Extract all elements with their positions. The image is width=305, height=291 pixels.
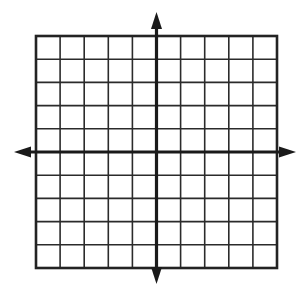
figure-background	[0, 0, 305, 291]
coordinate-grid-svg	[0, 0, 305, 291]
coordinate-plane-figure	[0, 0, 305, 291]
